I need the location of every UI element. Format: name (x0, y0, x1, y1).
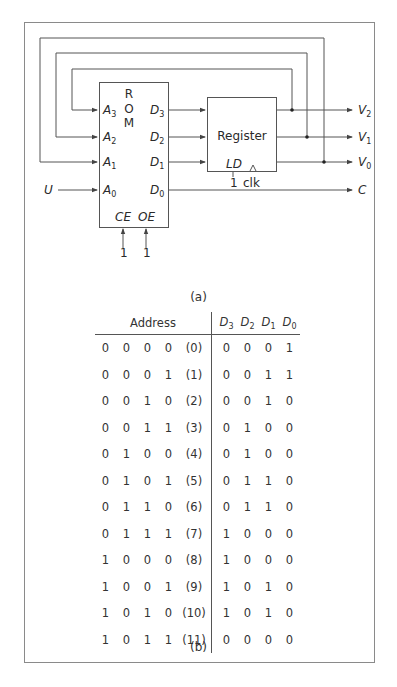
data-bit: 0 (212, 415, 238, 442)
pin-d0: D0 (150, 183, 164, 199)
data-bit: 0 (279, 388, 300, 415)
address-bit: 0 (116, 335, 137, 362)
rom-label-r: R (125, 87, 133, 101)
address-bit: 0 (158, 494, 179, 521)
address-bit: 0 (116, 388, 137, 415)
rom-circuit-diagram: R O M A3 A2 A1 A0 D3 D2 D1 D0 CE OE LD U… (0, 0, 397, 300)
data-bit: 1 (258, 494, 279, 521)
data-bit: 0 (237, 574, 258, 601)
table-row: 0111(7)1000 (95, 521, 300, 548)
data-bit: 0 (258, 547, 279, 574)
address-bit: 0 (137, 547, 158, 574)
address-bit: 0 (158, 547, 179, 574)
data-bit: 0 (279, 547, 300, 574)
table-row: 1001(9)1010 (95, 574, 300, 601)
address-bit: 0 (95, 494, 116, 521)
address-bit: 0 (116, 415, 137, 442)
data-bit: 0 (237, 521, 258, 548)
data-bit: 0 (237, 600, 258, 627)
address-bit: 0 (95, 388, 116, 415)
output-v1: V1 (358, 130, 371, 146)
address-bit: 0 (158, 441, 179, 468)
pin-ld: LD (226, 157, 242, 171)
data-bit: 1 (212, 600, 238, 627)
pin-d3: D3 (150, 103, 164, 119)
register-label: Register (217, 129, 266, 143)
table-row: 0100(4)0100 (95, 441, 300, 468)
address-bit: 1 (158, 521, 179, 548)
data-bit: 0 (212, 468, 238, 495)
data-bit: 1 (237, 468, 258, 495)
address-bit: 1 (158, 574, 179, 601)
data-bit: 1 (212, 574, 238, 601)
output-v2: V2 (358, 103, 371, 119)
oe-value: 1 (143, 246, 151, 260)
input-u: U (44, 183, 53, 197)
data-bit: 0 (258, 415, 279, 442)
address-index: (10) (179, 600, 212, 627)
address-bit: 0 (137, 335, 158, 362)
data-bit: 1 (258, 362, 279, 389)
table-row: 0011(3)0100 (95, 415, 300, 442)
address-bit: 1 (137, 494, 158, 521)
address-index: (0) (179, 335, 212, 362)
table-row: 0010(2)0010 (95, 388, 300, 415)
address-bit: 0 (137, 362, 158, 389)
caption-a: (a) (0, 290, 397, 304)
pin-a2: A2 (102, 130, 116, 146)
data-bit: 0 (212, 335, 238, 362)
address-bit: 0 (95, 441, 116, 468)
address-bit: 1 (137, 600, 158, 627)
header-d0: D0 (279, 312, 300, 335)
header-address: Address (95, 312, 212, 335)
pin-d1: D1 (150, 155, 164, 171)
address-index: (9) (179, 574, 212, 601)
data-bit: 1 (237, 415, 258, 442)
address-bit: 0 (116, 362, 137, 389)
address-bit: 0 (95, 335, 116, 362)
data-bit: 0 (258, 521, 279, 548)
rom-contents-table: Address D3 D2 D1 D0 0000(0)00010001(1)00… (95, 312, 300, 653)
table-row: 0110(6)0110 (95, 494, 300, 521)
address-bit: 1 (95, 600, 116, 627)
data-bit: 1 (258, 600, 279, 627)
address-bit: 1 (137, 388, 158, 415)
data-bit: 0 (258, 441, 279, 468)
address-bit: 1 (158, 415, 179, 442)
data-bit: 0 (258, 335, 279, 362)
address-bit: 1 (158, 468, 179, 495)
data-bit: 1 (237, 494, 258, 521)
data-bit: 0 (237, 335, 258, 362)
address-index: (8) (179, 547, 212, 574)
pin-a0: A0 (102, 183, 116, 199)
data-bit: 1 (258, 388, 279, 415)
address-index: (2) (179, 388, 212, 415)
rom-label-m: M (124, 116, 134, 130)
data-bit: 1 (258, 468, 279, 495)
data-bit: 1 (258, 574, 279, 601)
data-bit: 0 (279, 521, 300, 548)
header-d1: D1 (258, 312, 279, 335)
address-bit: 1 (116, 441, 137, 468)
table-row: 0001(1)0011 (95, 362, 300, 389)
address-bit: 1 (137, 415, 158, 442)
data-bit: 0 (212, 494, 238, 521)
address-bit: 1 (116, 494, 137, 521)
address-bit: 0 (158, 388, 179, 415)
table-row: 1000(8)1000 (95, 547, 300, 574)
address-bit: 1 (95, 574, 116, 601)
header-d2: D2 (237, 312, 258, 335)
address-bit: 0 (116, 600, 137, 627)
caption-b: (b) (0, 640, 397, 654)
address-bit: 0 (116, 574, 137, 601)
address-bit: 0 (137, 574, 158, 601)
data-bit: 0 (237, 547, 258, 574)
address-bit: 0 (137, 441, 158, 468)
address-bit: 1 (158, 362, 179, 389)
data-bit: 1 (237, 441, 258, 468)
output-c: C (358, 183, 367, 197)
address-bit: 0 (95, 468, 116, 495)
table-row: 0000(0)0001 (95, 335, 300, 362)
address-bit: 0 (95, 362, 116, 389)
table-row: 0101(5)0110 (95, 468, 300, 495)
